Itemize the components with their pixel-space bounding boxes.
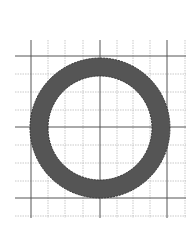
ring-diagram [0,0,195,232]
